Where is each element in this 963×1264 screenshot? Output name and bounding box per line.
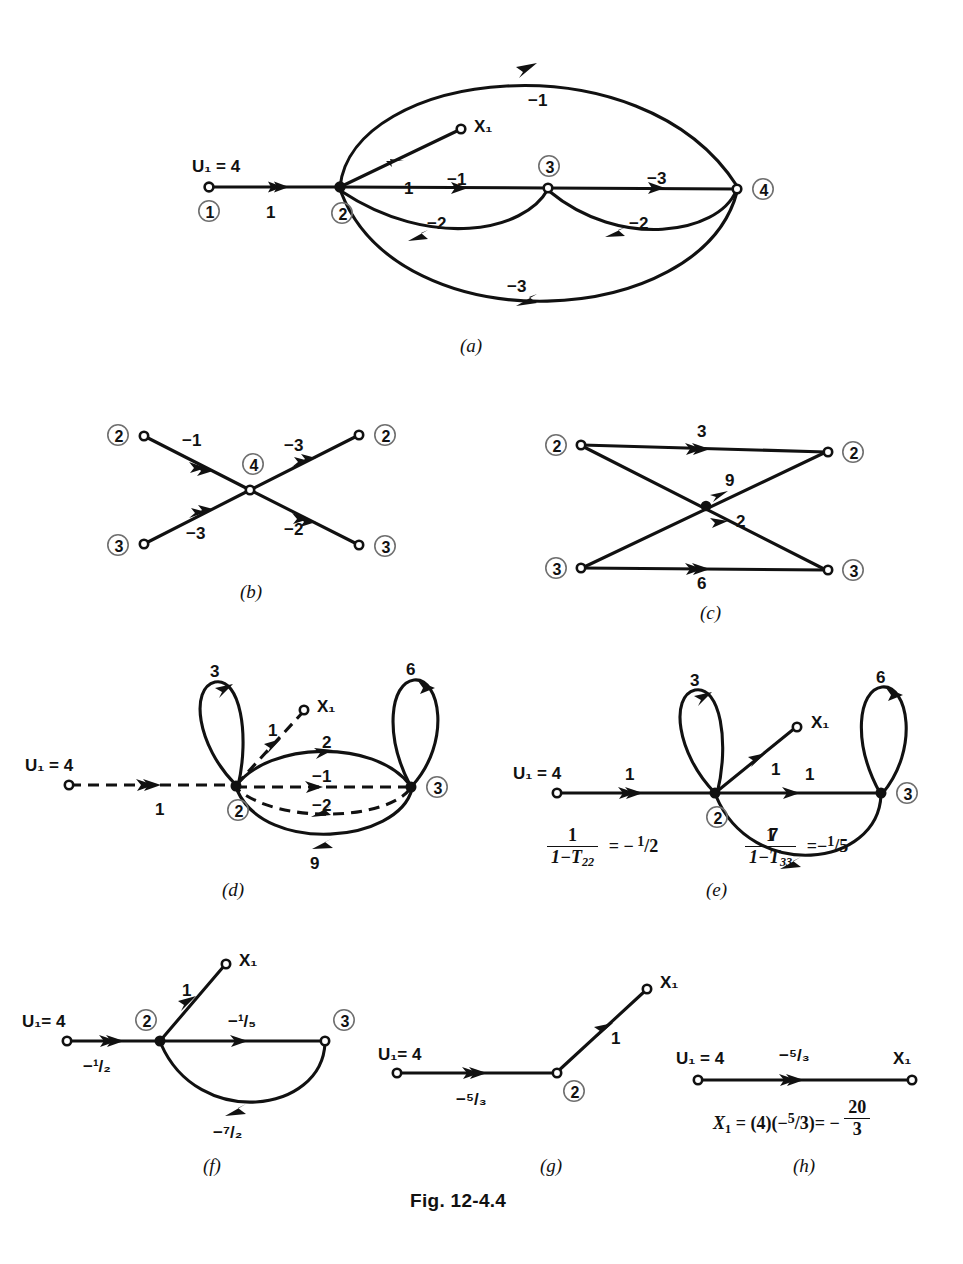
gain-e-loop-3: 6 (876, 669, 885, 686)
edge-f-3-to-2 (161, 1043, 325, 1102)
panel-a-output-label: X₁ (474, 118, 492, 135)
gain-e-loop-2: 3 (690, 672, 699, 689)
node-c-left-3-label: 3 (550, 562, 564, 578)
node-f-x1-dot (222, 960, 230, 968)
gain-e-2-3: 1 (805, 766, 814, 783)
gain-d-loop-3: 6 (406, 661, 415, 678)
panel-b-graph (108, 425, 395, 556)
gain-d-3-2-solid: 9 (310, 855, 319, 872)
gain-e-u1-2: 1 (625, 766, 634, 783)
node-2-dot (335, 182, 344, 191)
node-c-right-3-label: 3 (847, 564, 861, 580)
panel-a-graph (199, 63, 773, 306)
gain-b-4-2: −3 (284, 437, 303, 454)
gain-c-2-2: 3 (697, 423, 706, 440)
panel-d-graph (65, 680, 447, 849)
gain-g-u1-2: −⁵/₃ (456, 1091, 487, 1108)
panel-h-label: (h) (793, 1155, 815, 1177)
node-d-2-label: 2 (232, 804, 246, 820)
formula-e-left-numerator: 1 (547, 825, 598, 847)
gain-a-2-4-upper: −1 (528, 92, 547, 109)
gain-d-3-2-dashed: −2 (312, 797, 331, 814)
arrowhead-d-3-to-2-solid (312, 838, 333, 849)
node-c-right-3-dot (824, 566, 832, 574)
gain-a-3-4: −3 (647, 170, 666, 187)
node-e-u1-dot (553, 789, 561, 797)
node-h-u1-dot (694, 1076, 702, 1084)
node-3-dot (544, 184, 553, 193)
node-d-3-dot (407, 783, 416, 792)
edge-b-4-to-3 (250, 490, 357, 544)
panel-h-output-label: X₁ (893, 1050, 911, 1067)
gain-f-2-3: −¹/₅ (228, 1013, 256, 1030)
node-4-dot (733, 185, 742, 194)
gain-a-3-2: −2 (427, 215, 446, 232)
panel-e-source-label: U₁ = 4 (513, 765, 561, 782)
panel-g-source-label: U₁= 4 (378, 1046, 421, 1063)
node-b-4-dot (246, 486, 254, 494)
gain-d-2-3-mid: −1 (312, 768, 331, 785)
panel-a-source-label: U₁ = 4 (192, 158, 240, 175)
arrowhead-2-to-4-upper (516, 63, 537, 78)
node-2-label: 2 (336, 207, 350, 223)
formula-e-left-equals: = − 1/2 (603, 836, 659, 856)
edge-2-to-x1 (340, 130, 459, 187)
node-1-label: 1 (203, 205, 217, 221)
gain-h-u1-x1: −⁵/₃ (779, 1047, 810, 1064)
arrowhead-3-to-2 (408, 230, 428, 241)
gain-c-3-2: 9 (725, 472, 734, 489)
gain-d-2-3-upper: 2 (322, 734, 331, 751)
node-g-u1-dot (393, 1069, 401, 1077)
gain-d-2-x1: 1 (268, 722, 277, 739)
node-e-3-dot (877, 789, 886, 798)
figure-caption: Fig. 12-4.4 (410, 1190, 506, 1212)
node-c-left-3-dot (577, 564, 585, 572)
gain-b-4-3: −2 (284, 521, 303, 538)
formula-e-right: 1 1−T33 =−1/5 (745, 825, 848, 870)
node-4-label: 4 (757, 183, 771, 199)
node-c-left-2-dot (577, 441, 585, 449)
loop-e-node2 (680, 690, 723, 794)
edge-f-2-to-x1 (160, 966, 224, 1041)
node-x1-dot (457, 125, 466, 134)
formula-e-left-denominator: 1−T22 (547, 847, 598, 870)
arrowhead-f-3-to-2 (225, 1104, 246, 1116)
node-b-right-3-dot (355, 541, 363, 549)
panel-h-result-lhs-sub: 1 (725, 1122, 731, 1136)
node-c-right-2-label: 2 (847, 446, 861, 462)
gain-c-2-3: 2 (736, 513, 745, 530)
gain-f-3-2: −⁷/₂ (213, 1124, 242, 1141)
node-b-right-2-label: 2 (379, 429, 393, 445)
node-e-2-label: 2 (711, 811, 725, 827)
gain-c-3-3: 6 (697, 575, 706, 592)
node-d-3-label: 3 (431, 781, 445, 797)
panel-d-label: (d) (222, 879, 244, 901)
gain-f-2-x1: 1 (182, 982, 191, 999)
panel-f-graph (63, 960, 354, 1116)
panel-e-output-label: X₁ (811, 714, 829, 731)
node-e-3-label: 3 (901, 787, 915, 803)
panel-f-label: (f) (203, 1155, 221, 1177)
loop-e-node3 (861, 687, 906, 794)
node-f-3-label: 3 (338, 1014, 352, 1030)
panel-b-label: (b) (240, 581, 262, 603)
panel-c-graph (546, 435, 863, 580)
node-d-u1-dot (65, 781, 73, 789)
node-g-2-label: 2 (568, 1085, 582, 1101)
node-d-2-dot (232, 782, 241, 791)
panel-h-result-den: 3 (844, 1119, 870, 1141)
node-1-dot (205, 183, 214, 192)
edge-2-to-3 (340, 187, 548, 188)
node-e-2-dot (711, 789, 720, 798)
node-d-x1-dot (300, 706, 308, 714)
node-b-4-label: 4 (247, 458, 261, 474)
panel-c-label: (c) (700, 602, 721, 624)
panel-h-result: X1 = (4)(−5/3)= − 20 3 (713, 1097, 870, 1141)
arrowhead-2-to-x1 (386, 159, 404, 167)
panel-a-label: (a) (460, 335, 482, 357)
node-3-label: 3 (543, 160, 557, 176)
gain-a-4-2-lower: −3 (507, 278, 526, 295)
node-f-3-dot (321, 1037, 329, 1045)
node-f-2-dot (156, 1037, 165, 1046)
panel-h-result-num: 20 (844, 1097, 870, 1119)
